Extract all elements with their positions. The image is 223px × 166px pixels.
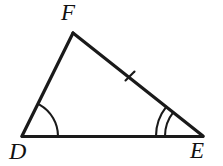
vertex-label-F: F [61,1,75,24]
side-DF [22,33,73,136]
side-FE [73,33,203,136]
angle-arc-D-1 [40,105,58,136]
vertex-label-E: E [190,139,204,162]
vertex-label-D: D [9,139,26,163]
angle-arc-E-1 [165,112,173,136]
geometry-figure: F D E [0,0,223,166]
